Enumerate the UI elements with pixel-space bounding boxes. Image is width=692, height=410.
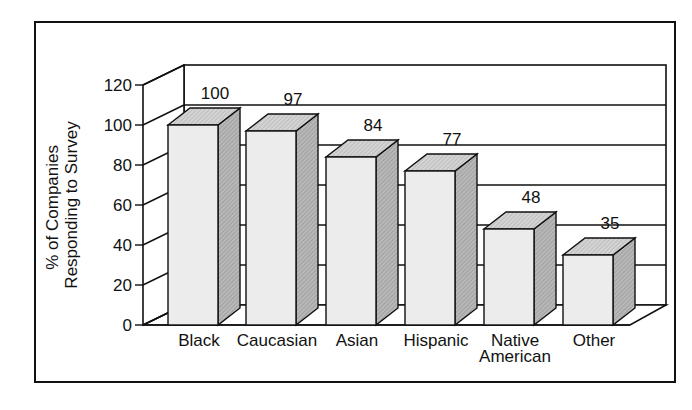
bar-side <box>455 154 477 325</box>
bar-side <box>218 108 240 325</box>
y-tick-label: 60 <box>113 196 132 215</box>
bar-side <box>376 140 398 325</box>
y-axis-title-line-2: Responding to Survey <box>62 121 81 289</box>
y-tick-label: 0 <box>123 316 132 335</box>
data-label: 97 <box>284 90 303 109</box>
x-tick-label: Caucasian <box>237 331 317 350</box>
x-tick-label: American <box>479 347 551 366</box>
x-tick-label: Asian <box>336 331 379 350</box>
bar-front <box>405 171 455 325</box>
x-tick-label: Hispanic <box>403 331 469 350</box>
y-tick-label: 20 <box>113 276 132 295</box>
data-label: 100 <box>201 84 229 103</box>
x-tick-label: Black <box>178 331 220 350</box>
data-label: 77 <box>443 130 462 149</box>
bar-caucasian: 97 <box>246 90 318 325</box>
bar-side <box>534 212 556 325</box>
data-label: 48 <box>522 188 541 207</box>
y-tick-label: 120 <box>104 76 132 95</box>
y-tick-label: 40 <box>113 236 132 255</box>
data-label: 35 <box>601 214 620 233</box>
y-axis-title: % of Companies Responding to Survey <box>43 121 81 289</box>
bar-front <box>563 255 613 325</box>
bar-side <box>296 114 318 325</box>
bar-front <box>246 131 296 325</box>
bar-front <box>168 125 218 325</box>
y-axis-title-line-1: % of Companies <box>43 145 62 270</box>
x-tick-label: Other <box>573 331 616 350</box>
y-tick-label: 100 <box>104 116 132 135</box>
bar-chart-3d: 020406080100120 1009784774835 BlackCauca… <box>0 0 692 410</box>
data-label: 84 <box>364 116 383 135</box>
bar-front <box>326 157 376 325</box>
bar-front <box>484 229 534 325</box>
y-tick-label: 80 <box>113 156 132 175</box>
bar-black: 100 <box>168 84 240 325</box>
